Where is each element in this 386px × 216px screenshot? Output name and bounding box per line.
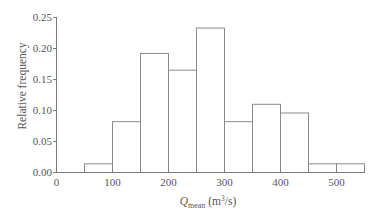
x-tick-label: 200 (160, 176, 177, 188)
y-tick-label: 0.25 (33, 11, 53, 23)
y-axis-title: Relative frequency (16, 42, 29, 129)
histogram-bar (253, 104, 281, 172)
y-tick-label: 0.00 (33, 166, 53, 178)
x-tick-label: 500 (328, 176, 345, 188)
histogram-bars (85, 28, 365, 172)
x-label-subscript: mean (188, 201, 205, 210)
histogram-bar (309, 164, 337, 173)
x-tick-label: 100 (104, 176, 121, 188)
y-tick-label: 0.10 (33, 104, 53, 116)
histogram-bar (113, 122, 141, 173)
x-label-units-suffix: /s) (225, 195, 237, 208)
y-tick-label: 0.20 (33, 42, 53, 54)
x-label-units: (m (205, 195, 221, 208)
y-axis-ticks: 0.000.050.100.150.200.25 (33, 11, 56, 178)
histogram-bar (85, 164, 113, 173)
y-tick-label: 0.05 (33, 135, 53, 147)
x-tick-label: 0 (54, 176, 60, 188)
histogram-bar (281, 113, 309, 173)
histogram-bar (337, 164, 365, 173)
x-axis-title: Qmean (m3/s) (180, 194, 237, 210)
x-tick-label: 300 (216, 176, 233, 188)
histogram-bar (141, 53, 169, 172)
histogram-chart: 0.000.050.100.150.200.25 010020030040050… (0, 0, 386, 216)
x-tick-label: 400 (272, 176, 289, 188)
histogram-bar (225, 122, 253, 173)
y-tick-label: 0.15 (33, 73, 53, 85)
histogram-bar (169, 70, 197, 172)
histogram-bar (197, 28, 225, 172)
